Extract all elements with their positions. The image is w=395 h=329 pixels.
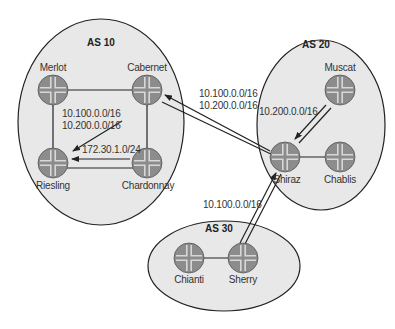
router-merlot bbox=[38, 75, 68, 105]
route-prefix: 172.30.1.0/24 bbox=[82, 144, 141, 156]
route-prefix: 10.200.0.0/16 bbox=[199, 100, 258, 112]
route-label-cabernet-riesling: 10.100.0.0/16 10.200.0.0/16 bbox=[62, 108, 121, 132]
router-riesling bbox=[38, 148, 68, 178]
route-label-muscat-shiraz: 10.200.0.0/16 bbox=[259, 106, 318, 118]
router-label-cabernet: Cabernet bbox=[127, 62, 167, 73]
as-20-label: AS 20 bbox=[302, 39, 330, 50]
router-label-chianti: Chianti bbox=[174, 274, 204, 285]
router-label-shiraz: Shiraz bbox=[273, 174, 300, 185]
route-prefix: 10.200.0.0/16 bbox=[259, 106, 318, 118]
router-label-muscat: Muscat bbox=[324, 62, 355, 73]
route-prefix: 10.200.0.0/16 bbox=[62, 120, 121, 132]
router-sherry bbox=[228, 243, 258, 273]
as-30-label: AS 30 bbox=[205, 223, 233, 234]
router-shiraz bbox=[270, 142, 300, 172]
router-chablis bbox=[325, 142, 355, 172]
as-30-boundary bbox=[148, 221, 300, 311]
route-label-shiraz-cabernet: 10.100.0.0/16 10.200.0.0/16 bbox=[199, 88, 258, 112]
router-cabernet bbox=[132, 75, 162, 105]
router-label-sherry: Sherry bbox=[229, 274, 257, 285]
route-prefix: 10.100.0.0/16 bbox=[203, 199, 262, 211]
router-label-chablis: Chablis bbox=[324, 174, 356, 185]
route-label-chardonnay-riesling: 172.30.1.0/24 bbox=[82, 144, 141, 156]
route-prefix: 10.100.0.0/16 bbox=[199, 88, 258, 100]
router-label-merlot: Merlot bbox=[40, 62, 67, 73]
router-chianti bbox=[174, 243, 204, 273]
router-label-chardonnay: Chardonnay bbox=[122, 180, 174, 191]
route-label-sherry-shiraz: 10.100.0.0/16 bbox=[203, 199, 262, 211]
router-label-riesling: Riesling bbox=[36, 180, 70, 191]
as-10-label: AS 10 bbox=[87, 37, 115, 48]
route-prefix: 10.100.0.0/16 bbox=[62, 108, 121, 120]
router-muscat bbox=[325, 75, 355, 105]
